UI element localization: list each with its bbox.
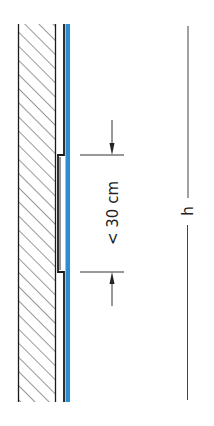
hatched-wall xyxy=(18,24,56,402)
blue-membrane xyxy=(66,24,71,402)
arrow-up-icon xyxy=(110,272,115,284)
gap-dimension-label: < 30 cm xyxy=(104,181,122,245)
gap-dimension: < 30 cm xyxy=(80,120,124,306)
facade-section-diagram: < 30 cm h xyxy=(0,0,214,426)
height-dimension-label: h xyxy=(179,206,197,216)
arrow-down-icon xyxy=(110,143,115,155)
height-dimension: h xyxy=(179,26,197,400)
cladding-panel xyxy=(58,24,64,402)
